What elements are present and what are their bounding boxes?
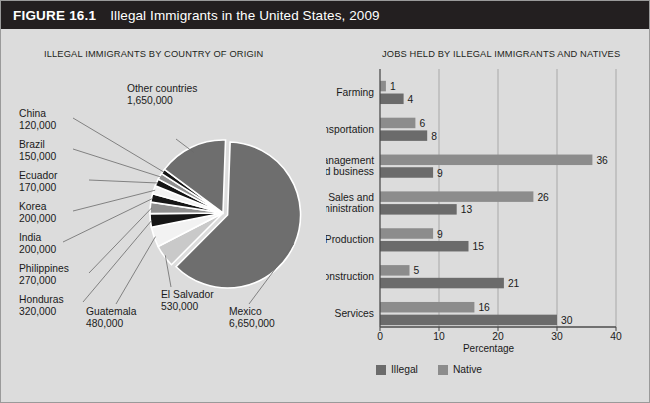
bar-value-label: 6 <box>419 118 425 129</box>
bar-rect-illegal-farming <box>380 94 404 105</box>
bar-rect-illegal-sales-and-administration <box>380 204 457 215</box>
bar-value-label: 16 <box>478 302 490 313</box>
bar-value-label: 13 <box>461 204 473 215</box>
bar-panel-heading: JOBS HELD BY ILLEGAL IMMIGRANTS AND NATI… <box>382 49 620 59</box>
pie-label-other-countries: Other countries 1,650,000 <box>127 83 197 106</box>
pie-label-mexico: Mexico 6,650,000 <box>229 306 275 329</box>
bar-xtick-label: 0 <box>377 331 383 342</box>
pie-leader-line <box>73 190 155 211</box>
pie-slice-group <box>150 140 301 288</box>
bar-xtick-label: 20 <box>492 331 504 342</box>
bar-value-label: 30 <box>561 315 573 326</box>
bar-category-label: and business <box>326 166 374 177</box>
bar-xtick-label: 30 <box>551 331 563 342</box>
legend-item-native: Native <box>438 364 482 375</box>
bar-rect-native-construction <box>380 265 410 276</box>
bar-value-label: 26 <box>537 192 549 203</box>
bar-value-label: 4 <box>408 94 414 105</box>
bar-rect-illegal-construction <box>380 278 504 289</box>
bar-rect-native-transportation <box>380 118 415 129</box>
legend-label-illegal: Illegal <box>391 364 418 375</box>
pie-label-india: India 200,000 <box>19 232 56 255</box>
bar-value-label: 8 <box>431 131 437 142</box>
bar-rect-illegal-production <box>380 241 469 252</box>
bar-xtick-label: 10 <box>433 331 445 342</box>
bar-xtick-label: 40 <box>610 331 622 342</box>
pie-chart-panel: Other countries 1,650,000 China 120,000 … <box>1 61 326 391</box>
figure-number: FIGURE 16.1 <box>13 8 96 23</box>
legend-item-illegal: Illegal <box>376 364 418 375</box>
legend-swatch-illegal <box>376 365 386 375</box>
bar-category-label: Production <box>326 234 374 245</box>
legend-label-native: Native <box>453 364 482 375</box>
bar-rect-native-production <box>380 228 433 239</box>
figure-title-bar: FIGURE 16.1 Illegal Immigrants in the Un… <box>1 1 650 29</box>
bar-chart-panel: FarmingTransportationManagementand busin… <box>326 61 650 391</box>
bar-x-axis-title: Percentage <box>326 343 650 354</box>
bar-rect-native-services <box>380 302 474 313</box>
pie-label-ecuador: Ecuador 170,000 <box>19 170 57 193</box>
bar-value-label: 9 <box>437 168 443 179</box>
pie-label-el-salvador: El Salvador 530,000 <box>161 289 214 312</box>
bar-rect-native-farming <box>380 81 386 92</box>
bar-category-label: administration <box>326 203 374 214</box>
bar-category-label: Sales and <box>328 192 374 203</box>
bar-legend: Illegal Native <box>376 364 482 375</box>
legend-swatch-native <box>438 365 448 375</box>
bar-category-label-group: FarmingTransportationManagementand busin… <box>326 87 374 319</box>
pie-leader-line <box>89 208 152 273</box>
pie-leader-line <box>73 118 164 172</box>
bar-tick-label-group: 010203040 <box>377 331 622 342</box>
bar-category-label: Management <box>326 155 374 166</box>
pie-label-philippines: Philippines 270,000 <box>19 263 69 286</box>
bar-value-label-group: 146836926139155211630 <box>390 81 608 326</box>
bar-value-label: 1 <box>390 81 396 92</box>
bar-category-label: Construction <box>326 271 374 282</box>
bar-value-label: 21 <box>508 278 520 289</box>
bar-rect-illegal-services <box>380 315 557 326</box>
bar-rect-group <box>380 81 592 325</box>
pie-label-honduras: Honduras 320,000 <box>19 294 64 317</box>
bar-rect-illegal-transportation <box>380 130 427 141</box>
pie-label-brazil: Brazil 150,000 <box>19 139 56 162</box>
pie-leader-line <box>116 237 156 304</box>
pie-leader-line <box>89 180 158 183</box>
bar-category-label: Farming <box>336 87 374 98</box>
figure-title: Illegal Immigrants in the United States,… <box>110 8 379 23</box>
bar-chart-svg: FarmingTransportationManagementand busin… <box>326 61 650 391</box>
bar-value-label: 15 <box>473 241 485 252</box>
pie-label-guatemala: Guatemala 480,000 <box>86 306 136 329</box>
pie-panel-heading: ILLEGAL IMMIGRANTS BY COUNTRY OF ORIGIN <box>44 49 263 59</box>
bar-rect-native-sales-and-administration <box>380 191 533 202</box>
bar-category-label: Transportation <box>326 124 374 135</box>
bar-category-label: Services <box>335 308 374 319</box>
bar-rect-native-management-and-business <box>380 155 592 166</box>
bar-rect-illegal-management-and-business <box>380 167 433 178</box>
bar-value-label: 36 <box>596 155 608 166</box>
bar-value-label: 9 <box>437 229 443 240</box>
pie-label-china: China 120,000 <box>19 108 56 131</box>
pie-label-korea: Korea 200,000 <box>19 201 56 224</box>
bar-value-label: 5 <box>414 265 420 276</box>
figure-container: FIGURE 16.1 Illegal Immigrants in the Un… <box>0 0 650 403</box>
